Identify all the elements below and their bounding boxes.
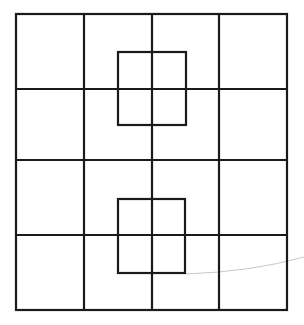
grid-diagram xyxy=(0,0,304,325)
